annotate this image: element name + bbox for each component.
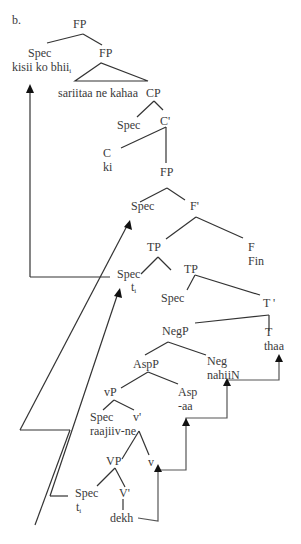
- spec-top-word-text: kisii ko bhii: [12, 60, 69, 74]
- node-asp-word: -aa: [178, 400, 193, 413]
- node-tp-spec: Spec: [117, 268, 140, 281]
- node-c-word: ki: [103, 161, 112, 174]
- node-vp-big: VP: [106, 455, 121, 468]
- node-fp3-spec: Spec: [131, 200, 154, 213]
- node-tp1: TP: [147, 241, 161, 254]
- node-tp2: TP: [184, 263, 198, 276]
- node-vp-small-spec: Spec: [90, 411, 113, 424]
- node-c-head: C: [103, 147, 111, 160]
- node-vp-big-spec: Spec: [75, 487, 98, 500]
- triangle-text: sariitaa ne kahaa: [58, 87, 138, 100]
- node-aspp: AspP: [133, 358, 159, 371]
- node-spec-top: Spec: [28, 47, 51, 60]
- vp-big-spec-trace-index: i: [79, 507, 81, 515]
- node-asp-head: Asp: [178, 386, 197, 399]
- node-negp: NegP: [162, 325, 189, 338]
- node-fp-root: FP: [73, 18, 86, 31]
- node-t-bar: T ': [263, 297, 275, 310]
- node-fp2: FP: [99, 47, 112, 60]
- node-cp: CP: [146, 87, 161, 100]
- node-f-bar: F': [190, 200, 199, 213]
- node-v-small-bar: v': [133, 411, 141, 424]
- node-f-word: Fin: [248, 255, 264, 268]
- node-v-big-bar: V': [119, 487, 130, 500]
- node-vp-big-spec-trace: ti: [76, 501, 81, 518]
- node-tp-spec-trace: ti: [131, 281, 136, 298]
- node-neg-head: Neg: [207, 355, 227, 368]
- spec-top-index: i: [69, 67, 71, 75]
- node-f-head: F: [248, 241, 255, 254]
- node-tp2-spec: Spec: [161, 292, 184, 305]
- node-spec-top-word: kisii ko bhiii: [12, 61, 71, 78]
- node-t-head: T: [265, 326, 272, 339]
- node-t-word: thaa: [264, 340, 284, 353]
- node-fp3: FP: [160, 166, 173, 179]
- node-cp-spec: Spec: [117, 119, 140, 132]
- node-c-bar: C': [160, 115, 170, 128]
- node-vp-small: vP: [104, 386, 117, 399]
- node-neg-word: nahiiN: [207, 369, 240, 382]
- node-v-small-head: v: [148, 456, 154, 469]
- node-vp-small-spec-word: raajiiv-ne: [90, 425, 136, 438]
- node-v-word: dekh: [110, 512, 133, 525]
- example-label: b.: [12, 14, 21, 27]
- tp-spec-trace-index: i: [134, 287, 136, 295]
